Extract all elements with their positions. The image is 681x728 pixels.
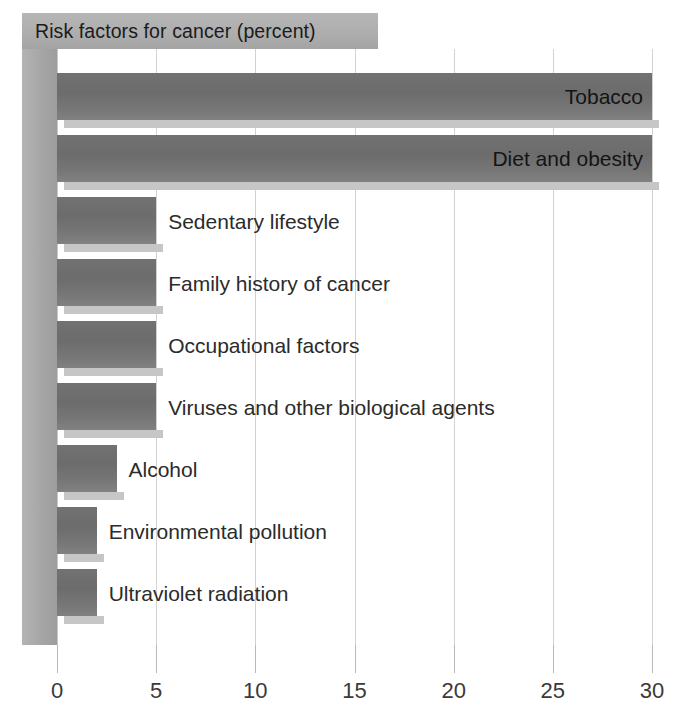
tick-mark-20 [454,645,455,673]
bar-shadow [64,182,659,190]
tick-mark-30 [652,645,653,673]
bar[interactable] [57,321,156,368]
bar[interactable] [57,259,156,306]
bar-row[interactable]: Viruses and other biological agents [57,383,652,430]
bar-row[interactable]: Ultraviolet radiation [57,569,652,616]
tick-mark-5 [156,645,157,673]
bar-label: Ultraviolet radiation [109,582,289,603]
tick-mark-10 [255,645,256,673]
bar[interactable]: Diet and obesity [57,135,652,182]
bar[interactable] [57,197,156,244]
plot-area: TobaccoDiet and obesitySedentary lifesty… [57,49,652,645]
bar-shadow [64,368,163,376]
x-axis-tick-label: 20 [441,678,465,704]
x-axis-tick-label: 10 [243,678,267,704]
x-axis-tick-label: 25 [541,678,565,704]
bar-label: Occupational factors [168,334,359,355]
bar-label: Tobacco [565,86,643,107]
bar-row[interactable]: Occupational factors [57,321,652,368]
bar[interactable] [57,569,97,616]
bar-label: Diet and obesity [492,148,643,169]
tick-mark-25 [553,645,554,673]
bar-row[interactable]: Tobacco [57,73,652,120]
x-axis-tick-label: 30 [640,678,664,704]
bar-label: Viruses and other biological agents [168,396,495,417]
bar-shadow [64,492,124,500]
bar-shadow [64,616,104,624]
bar-row[interactable]: Alcohol [57,445,652,492]
bar-row[interactable]: Family history of cancer [57,259,652,306]
chart-container: Risk factors for cancer (percent) Tobacc… [0,0,681,728]
bar[interactable] [57,507,97,554]
left-gray-band [22,13,57,645]
bar[interactable] [57,445,117,492]
x-axis-tick-label: 15 [342,678,366,704]
chart-title-band: Risk factors for cancer (percent) [22,13,378,49]
bar-label: Environmental pollution [109,520,327,541]
bar[interactable] [57,383,156,430]
bar-label: Alcohol [129,458,198,479]
bar-shadow [64,306,163,314]
bar-row[interactable]: Diet and obesity [57,135,652,182]
bar-row[interactable]: Environmental pollution [57,507,652,554]
chart-title: Risk factors for cancer (percent) [35,20,316,43]
tick-mark-15 [355,645,356,673]
bar-shadow [64,244,163,252]
bar[interactable]: Tobacco [57,73,652,120]
gridline-30 [652,49,653,645]
bar-shadow [64,430,163,438]
x-axis-tick-label: 0 [51,678,63,704]
tick-mark-0 [57,645,58,673]
bar-shadow [64,120,659,128]
bar-row[interactable]: Sedentary lifestyle [57,197,652,244]
bar-label: Sedentary lifestyle [168,210,340,231]
bar-shadow [64,554,104,562]
x-axis-tick-label: 5 [150,678,162,704]
bar-label: Family history of cancer [168,272,390,293]
